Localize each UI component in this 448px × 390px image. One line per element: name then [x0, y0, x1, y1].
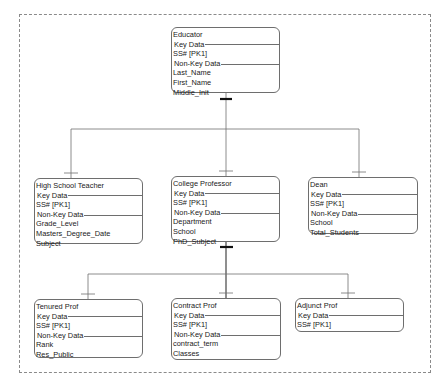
- attribute: Subject: [36, 239, 142, 249]
- entity-adjunct-prof[interactable]: Adjunct Prof Key Data SS# [PK1]: [295, 298, 404, 332]
- non-key-data-section: Non-Key Data: [173, 59, 279, 69]
- entity-title: Tenured Prof: [36, 302, 142, 312]
- entity-college-professor[interactable]: College Professor Key Data SS# [PK1] Non…: [171, 176, 280, 242]
- entity-title: Dean: [310, 180, 417, 190]
- attribute: Rank: [36, 340, 142, 350]
- attribute: Total_Students: [310, 228, 417, 238]
- primary-key-attr: SS# [PK1]: [297, 320, 403, 330]
- attribute: contract_term: [173, 339, 280, 349]
- key-data-section: Key Data: [297, 311, 403, 321]
- attribute: Classes: [173, 349, 280, 359]
- entity-title: Educator: [173, 30, 279, 40]
- entity-educator[interactable]: Educator Key Data SS# [PK1] Non-Key Data…: [171, 27, 280, 93]
- primary-key-attr: SS# [PK1]: [173, 320, 280, 330]
- non-key-data-section: Non-Key Data: [36, 331, 142, 341]
- attribute: Grade_Level: [36, 219, 142, 229]
- entity-title: College Professor: [173, 179, 279, 189]
- entity-tenured-prof[interactable]: Tenured Prof Key Data SS# [PK1] Non-Key …: [34, 299, 143, 358]
- key-data-section: Key Data: [36, 191, 142, 201]
- key-data-section: Key Data: [173, 311, 280, 321]
- attribute: School: [173, 227, 279, 237]
- entity-title: High School Teacher: [36, 181, 142, 191]
- attribute: Middle_Init: [173, 88, 279, 98]
- attribute: Masters_Degree_Date: [36, 229, 142, 239]
- key-data-section: Key Data: [36, 312, 142, 322]
- primary-key-attr: SS# [PK1]: [310, 199, 417, 209]
- primary-key-attr: SS# [PK1]: [173, 198, 279, 208]
- non-key-data-section: Non-Key Data: [310, 209, 417, 219]
- figure-caption: [0, 381, 448, 390]
- non-key-data-section: Non-Key Data: [173, 330, 280, 340]
- attribute: PhD_Subject: [173, 237, 279, 247]
- entity-title: Contract Prof: [173, 301, 280, 311]
- attribute: Res_Public: [36, 350, 142, 360]
- non-key-data-section: Non-Key Data: [173, 208, 279, 218]
- entity-high-school-teacher[interactable]: High School Teacher Key Data SS# [PK1] N…: [34, 178, 143, 244]
- entity-contract-prof[interactable]: Contract Prof Key Data SS# [PK1] Non-Key…: [171, 298, 281, 360]
- attribute: Department: [173, 217, 279, 227]
- primary-key-attr: SS# [PK1]: [173, 49, 279, 59]
- non-key-data-section: Non-Key Data: [36, 210, 142, 220]
- entity-dean[interactable]: Dean Key Data SS# [PK1] Non-Key Data Sch…: [308, 177, 418, 234]
- attribute: School: [310, 218, 417, 228]
- key-data-section: Key Data: [173, 189, 279, 199]
- primary-key-attr: SS# [PK1]: [36, 200, 142, 210]
- entity-title: Adjunct Prof: [297, 301, 403, 311]
- key-data-section: Key Data: [310, 190, 417, 200]
- key-data-section: Key Data: [173, 40, 279, 50]
- attribute: First_Name: [173, 78, 279, 88]
- attribute: Last_Name: [173, 68, 279, 78]
- primary-key-attr: SS# [PK1]: [36, 321, 142, 331]
